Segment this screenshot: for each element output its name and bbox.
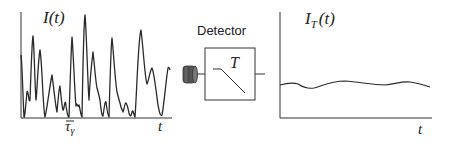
detector-title: Detector — [197, 23, 247, 38]
averaged-intensity-curve — [280, 81, 430, 88]
left-plot: I(t) τγ t — [21, 8, 172, 136]
diagram-canvas: I(t) τγ t Detector T IT(t) t — [0, 0, 454, 146]
intensity-waveform — [21, 15, 170, 117]
detector-time-constant: T — [230, 54, 240, 71]
detector-lens-icon — [183, 66, 198, 83]
left-ylabel: I(t) — [42, 8, 65, 27]
detector: Detector T — [183, 23, 265, 100]
left-xlabel: t — [158, 118, 163, 134]
right-plot: IT(t) t — [280, 9, 432, 137]
right-ylabel: IT(t) — [304, 9, 335, 30]
right-xlabel: t — [418, 121, 423, 137]
